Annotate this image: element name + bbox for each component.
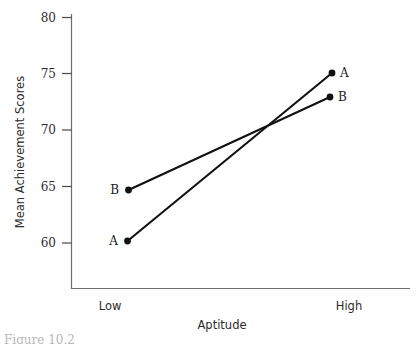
axis-lines (72, 14, 411, 289)
point-label-a-low: A (108, 234, 118, 248)
point-b-low (125, 187, 132, 194)
point-label-b-low: B (110, 183, 119, 197)
series-line-a (128, 73, 333, 241)
x-category-high: High (336, 299, 362, 313)
y-tick-label-80: 80 (41, 11, 56, 25)
interaction-line-chart: 80 75 70 65 60 B A A B Low High Aptitude… (0, 0, 418, 344)
y-tick-label-70: 70 (41, 123, 56, 137)
point-label-b-high: B (338, 90, 347, 104)
y-tick-label-75: 75 (41, 67, 56, 81)
y-tick-labels: 80 75 70 65 60 (41, 11, 56, 250)
y-tick-label-65: 65 (41, 180, 56, 194)
point-a-high (329, 70, 336, 77)
figure-caption: Figure 10.2 (4, 333, 174, 344)
x-axis-title: Aptitude (197, 318, 246, 332)
chart-page: 80 75 70 65 60 B A A B Low High Aptitude… (0, 0, 418, 344)
y-tick-label-60: 60 (41, 236, 56, 250)
y-tick-marks (62, 18, 72, 244)
y-axis-title: Mean Achievement Scores (13, 76, 27, 228)
point-label-a-high: A (339, 66, 349, 80)
point-b-high (327, 94, 334, 101)
series-line-b (129, 97, 331, 190)
point-a-low (124, 238, 131, 245)
x-category-low: Low (99, 299, 122, 313)
